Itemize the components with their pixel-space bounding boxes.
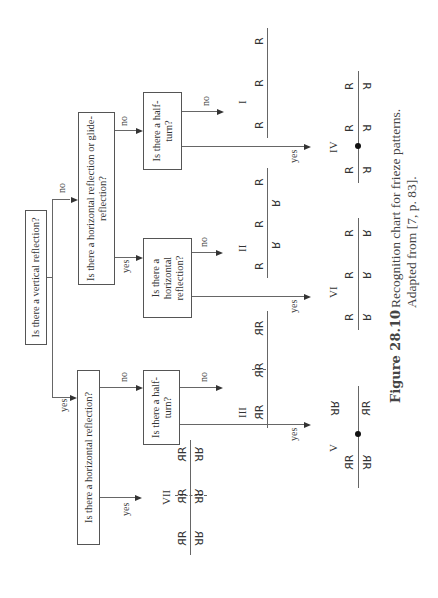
question-vertical-reflection: Is there a vertical reflection? bbox=[25, 210, 47, 345]
connector bbox=[52, 199, 70, 200]
connector bbox=[180, 387, 216, 388]
connector bbox=[100, 497, 136, 498]
glyph-text: R bbox=[270, 241, 281, 249]
arrow-icon bbox=[70, 395, 77, 401]
pattern-glyph-pair: RR bbox=[177, 489, 188, 504]
edge-label-yes: yes bbox=[288, 300, 299, 313]
glyph-text: R bbox=[253, 405, 266, 413]
pattern-glyph: R bbox=[344, 229, 355, 237]
pattern-numeral-I: I bbox=[236, 100, 248, 104]
glyph-text: R bbox=[176, 447, 189, 455]
pattern-glyph-pair: RR bbox=[193, 447, 204, 462]
arrow-icon bbox=[216, 385, 223, 391]
question-horizontal-reflection-mid: Is there a horizontal reflection? bbox=[143, 238, 192, 318]
edge-label-no: no bbox=[198, 372, 209, 382]
pattern-glyph: R bbox=[344, 82, 355, 90]
glyph-text: R bbox=[361, 229, 372, 237]
edge-label-yes: yes bbox=[288, 150, 299, 163]
pattern-glyph-pair: RR bbox=[254, 321, 265, 336]
arrow-icon bbox=[71, 197, 78, 203]
pattern-glyph: R bbox=[344, 124, 355, 132]
connector bbox=[182, 111, 217, 112]
pattern-glyph: R bbox=[254, 79, 265, 87]
connector bbox=[192, 296, 304, 297]
glyph-text: R bbox=[270, 199, 281, 207]
glyph-text: R bbox=[361, 82, 372, 90]
glyph-text: R bbox=[176, 531, 189, 539]
figure-label: Figure 28.10 bbox=[388, 310, 403, 403]
pattern-glyph-flipped: R bbox=[361, 229, 372, 237]
pattern-axis bbox=[358, 71, 359, 183]
edge-label-no: no bbox=[118, 116, 129, 126]
pattern-axis bbox=[267, 311, 268, 428]
glyph-text: R bbox=[177, 454, 188, 462]
arrow-icon bbox=[304, 294, 311, 300]
question-text: Is there a horizontal reflection? bbox=[83, 392, 95, 523]
pattern-glyph: R bbox=[254, 220, 265, 228]
connector bbox=[182, 146, 304, 147]
pattern-glyph-pair: RR bbox=[329, 401, 340, 416]
pattern-numeral-II: II bbox=[236, 245, 248, 252]
pattern-glyph-pair: RR bbox=[361, 455, 372, 470]
edge-label-yes: yes bbox=[120, 503, 131, 516]
pattern-axis bbox=[267, 28, 268, 138]
pattern-glyph-pair: RR bbox=[254, 405, 265, 420]
arrow-icon bbox=[217, 109, 224, 115]
question-text: Is there a half-turn? bbox=[151, 96, 175, 166]
arrow-icon bbox=[136, 128, 143, 134]
pattern-numeral-III: III bbox=[236, 407, 248, 418]
question-horizontal-reflection-left: Is there a horizontal reflection? bbox=[77, 370, 100, 545]
pattern-axis bbox=[358, 218, 359, 330]
pattern-glyph: R bbox=[254, 121, 265, 129]
glyph-text: R bbox=[193, 454, 204, 462]
glyph-text: R bbox=[361, 455, 372, 463]
edge-label-no: no bbox=[200, 96, 211, 106]
glyph-text: R bbox=[344, 462, 355, 470]
glyph-text: R bbox=[343, 455, 356, 463]
glyph-text: R bbox=[361, 271, 372, 279]
pattern-axis bbox=[267, 168, 268, 278]
glyph-text: R bbox=[254, 412, 265, 420]
question-half-turn-left: Is there a half-turn? bbox=[143, 370, 180, 445]
edge-label-no: no bbox=[118, 372, 129, 382]
pattern-glyph-flipped: R bbox=[361, 271, 372, 279]
question-text: Is there a horizontal reflection? bbox=[150, 242, 186, 314]
frieze-recognition-chart: Is there a vertical reflection? yes no I… bbox=[0, 0, 438, 598]
edge-label-yes: yes bbox=[288, 428, 299, 441]
pattern-axis bbox=[190, 440, 191, 555]
figure-caption-line2: Adapted from [7, p. 83]. bbox=[404, 176, 419, 308]
pattern-glyph-pair: RR bbox=[344, 455, 355, 470]
glyph-text: R bbox=[254, 328, 265, 336]
pattern-glyph-pair: RR bbox=[177, 531, 188, 546]
pattern-glyph-rotated: R bbox=[361, 166, 372, 174]
arrow-icon bbox=[136, 385, 143, 391]
glyph-text: R bbox=[193, 496, 204, 504]
pattern-numeral-IV: IV bbox=[327, 141, 339, 153]
pattern-numeral-V: V bbox=[327, 444, 339, 452]
pattern-glyph-flipped: R bbox=[270, 199, 281, 207]
figure-caption: Figure 28.10 bbox=[388, 310, 403, 403]
pattern-glyph: R bbox=[344, 166, 355, 174]
glyph-text: R bbox=[193, 538, 204, 546]
pattern-glyph: R bbox=[254, 178, 265, 186]
glyph-text: R bbox=[253, 321, 266, 329]
pattern-glyph-rotated: R bbox=[361, 82, 372, 90]
connector bbox=[115, 257, 137, 258]
glyph-text: R bbox=[177, 496, 188, 504]
pattern-glyph-pair: RR bbox=[361, 401, 372, 416]
glyph-text: R bbox=[329, 401, 340, 409]
pattern-glyph: R bbox=[344, 271, 355, 279]
glyph-text: R bbox=[177, 538, 188, 546]
pattern-glyph-pair: RR bbox=[193, 531, 204, 546]
question-text: Is there a half-turn? bbox=[150, 374, 174, 441]
connector bbox=[52, 200, 53, 398]
arrow-icon bbox=[304, 422, 311, 428]
glyph-text: R bbox=[193, 447, 204, 455]
edge-label-yes: yes bbox=[120, 260, 131, 273]
pattern-glyph-flipped: R bbox=[270, 241, 281, 249]
rotation-center bbox=[355, 143, 361, 149]
figure-caption-line1: Recognition chart for frieze patterns. bbox=[388, 109, 403, 308]
glyph-text: R bbox=[361, 313, 372, 321]
glyph-text: R bbox=[360, 401, 373, 409]
glyph-text: R bbox=[193, 531, 204, 539]
